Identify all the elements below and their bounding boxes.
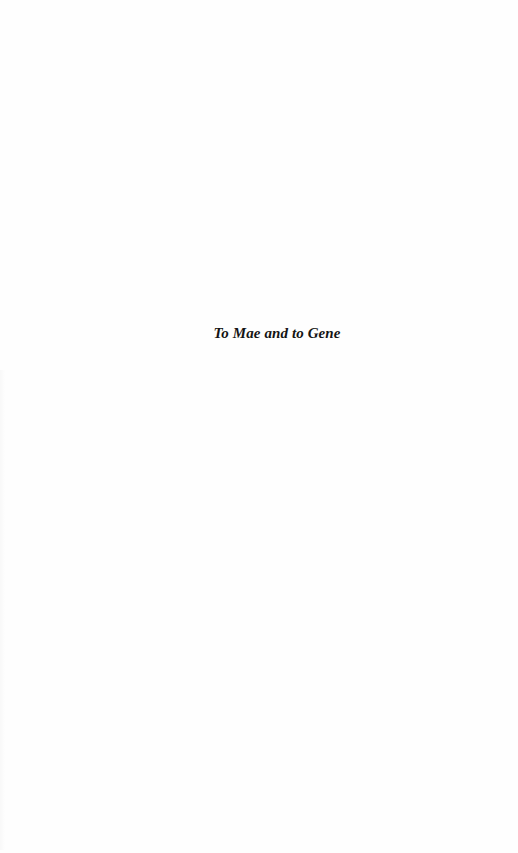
dedication-text: To Mae and to Gene <box>0 324 518 342</box>
scan-edge-shadow <box>0 370 5 850</box>
book-page: To Mae and to Gene <box>0 0 518 853</box>
